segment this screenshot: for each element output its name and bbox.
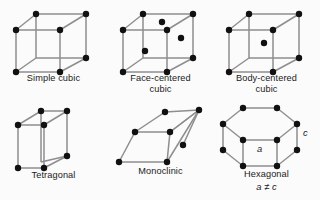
tetragonal-diagram <box>0 100 107 200</box>
caption-hexagonal: Hexagonal <box>213 169 320 180</box>
caption-line-1: Face-centered <box>130 73 191 83</box>
face-center-point-right <box>178 35 184 41</box>
face-center-point-front <box>142 48 148 54</box>
axis-label-a: a <box>257 143 262 154</box>
unit-cell-body-centered-cubic: Body-centered cubic <box>213 0 320 100</box>
caption-body-centered-cubic: Body-centered cubic <box>213 73 320 94</box>
caption-tetragonal: Tetragonal <box>0 170 107 181</box>
caption-monoclinic: Monoclinic <box>107 166 214 177</box>
unit-cell-simple-cubic: Simple cubic <box>0 0 107 100</box>
caption-line-1: Simple cubic <box>27 73 80 83</box>
unit-cell-face-centered-cubic: Face-centered cubic <box>107 0 214 100</box>
caption-line-1: Hexagonal <box>244 169 289 179</box>
unit-cell-hexagonal: a c Hexagonal a ≠ c <box>213 100 320 200</box>
monoclinic-diagram <box>107 100 214 200</box>
caption-line-2: cubic <box>213 84 320 95</box>
caption-line-1: Tetragonal <box>32 170 76 180</box>
caption-line-2: cubic <box>107 84 214 95</box>
unit-cell-monoclinic: Monoclinic <box>107 100 214 200</box>
caption-face-centered-cubic: Face-centered cubic <box>107 73 214 94</box>
crystal-lattice-figure: Simple cubic <box>0 0 320 200</box>
hexagonal-relation-note: a ≠ c <box>213 181 320 192</box>
caption-simple-cubic: Simple cubic <box>0 73 107 84</box>
simple-cubic-diagram <box>0 0 107 100</box>
axis-label-c: c <box>303 127 308 138</box>
face-center-point-top <box>159 19 165 25</box>
unit-cell-tetragonal: Tetragonal <box>0 100 107 200</box>
caption-line-1: Body-centered <box>236 73 297 83</box>
body-center-point <box>261 40 267 46</box>
caption-line-1: Monoclinic <box>138 166 182 176</box>
